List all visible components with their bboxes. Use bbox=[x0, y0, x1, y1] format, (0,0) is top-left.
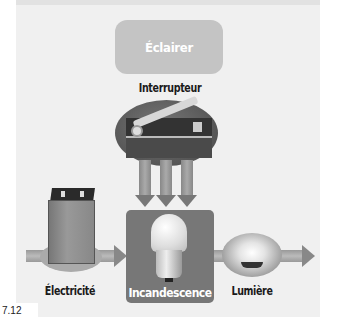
light-cup-icon bbox=[241, 262, 263, 268]
down-arrow-head-1 bbox=[135, 195, 155, 207]
down-arrow-1 bbox=[139, 160, 151, 196]
electricity-label: Électricité bbox=[39, 284, 101, 298]
light-label: Lumière bbox=[226, 284, 279, 298]
switch-contact-icon bbox=[193, 122, 202, 132]
down-arrow-2 bbox=[160, 160, 172, 196]
goal-box: Éclairer bbox=[115, 20, 223, 74]
battery-icon bbox=[48, 200, 95, 264]
panel-top-band bbox=[16, 0, 320, 5]
bulb-tip-icon bbox=[165, 278, 173, 282]
goal-label: Éclairer bbox=[145, 40, 193, 55]
figure-number: 7.12 bbox=[2, 305, 21, 316]
output-arrow-head bbox=[302, 245, 315, 267]
down-arrow-3 bbox=[181, 160, 193, 196]
battery-terminal-plus bbox=[61, 191, 65, 197]
light-glow-icon bbox=[222, 233, 282, 277]
bulb-glass-icon bbox=[151, 214, 187, 252]
switch-body bbox=[126, 136, 212, 158]
down-arrow-head-2 bbox=[156, 195, 176, 207]
incandescence-label: Incandescence bbox=[126, 286, 214, 300]
down-arrow-head-3 bbox=[177, 195, 197, 207]
bulb-base-icon bbox=[156, 250, 182, 278]
switch-pivot-icon bbox=[131, 125, 143, 137]
battery-terminal-minus bbox=[80, 191, 84, 197]
switch-label: Interrupteur bbox=[135, 81, 205, 95]
